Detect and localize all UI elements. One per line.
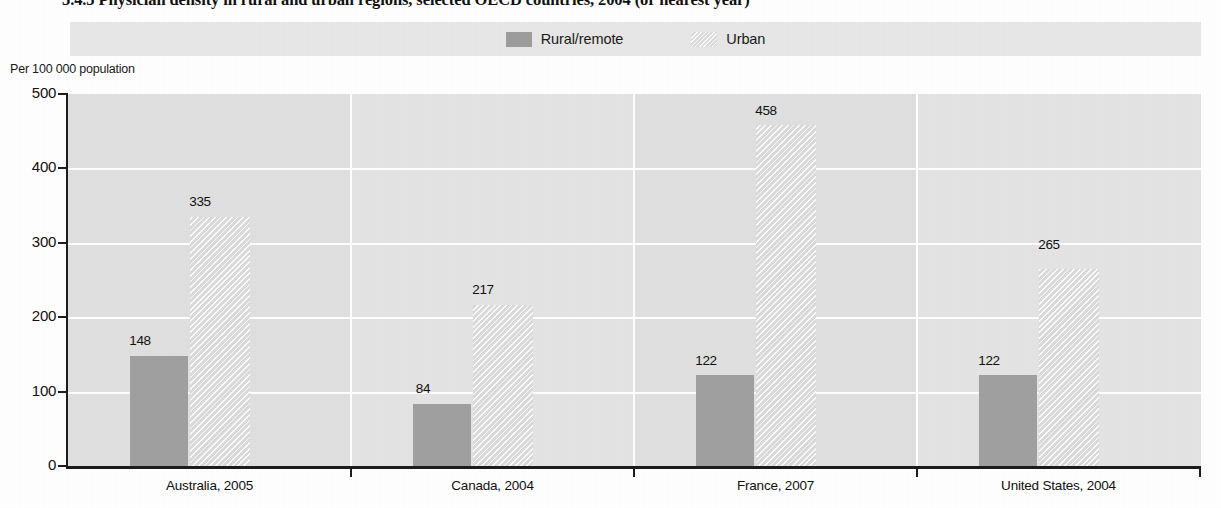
y-tick-500: [58, 93, 67, 95]
bar-rural-france: [696, 375, 754, 466]
group-separator: [916, 94, 918, 466]
x-axis-category-canada: Canada, 2004: [351, 478, 634, 493]
x-axis-category-australia: Australia, 2005: [68, 478, 351, 493]
x-axis-category-united-states: United States, 2004: [917, 478, 1200, 493]
legend-swatch-urban-icon: [691, 32, 717, 47]
group-separator: [350, 94, 352, 466]
bar-value-rural-canada: 84: [393, 381, 453, 396]
y-tick-200: [58, 316, 67, 318]
y-tick-100: [58, 391, 67, 393]
x-axis-category-france: France, 2007: [634, 478, 917, 493]
x-tick-separator: [350, 468, 352, 477]
bar-value-rural-united-states: 122: [959, 353, 1019, 368]
plot-area: [68, 94, 1201, 466]
page-title: 3.4.3 Physician density in rural and urb…: [62, 0, 1202, 12]
bar-rural-canada: [413, 404, 471, 467]
bar-urban-canada: [473, 305, 533, 466]
legend-label-rural: Rural/remote: [541, 31, 624, 47]
x-tick-separator: [1199, 468, 1201, 477]
group-separator: [633, 94, 635, 466]
chart-plot: 148 335 84 217 122 458 122 265 500 400 3…: [0, 80, 1221, 508]
legend-item-rural: Rural/remote: [506, 31, 624, 47]
y-axis-line: [66, 93, 68, 467]
y-tick-0: [58, 465, 67, 467]
y-axis-label-100: 100: [8, 382, 56, 399]
bar-value-rural-australia: 148: [110, 333, 170, 348]
y-axis-label-500: 500: [8, 84, 56, 101]
y-axis-label-300: 300: [8, 233, 56, 250]
y-tick-300: [58, 242, 67, 244]
legend-label-urban: Urban: [726, 31, 765, 47]
bar-value-urban-united-states: 265: [1019, 237, 1079, 252]
y-tick-400: [58, 167, 67, 169]
bar-value-urban-france: 458: [736, 103, 796, 118]
bar-value-urban-australia: 335: [170, 194, 230, 209]
y-axis-label-0: 0: [8, 456, 56, 473]
x-tick-separator: [916, 468, 918, 477]
bar-rural-australia: [130, 356, 188, 466]
legend-swatch-rural-icon: [506, 32, 532, 47]
y-axis-label-400: 400: [8, 158, 56, 175]
y-axis-label-200: 200: [8, 307, 56, 324]
bar-value-rural-france: 122: [676, 353, 736, 368]
chart-legend: Rural/remote Urban: [70, 22, 1201, 56]
x-tick-separator: [633, 468, 635, 477]
bar-urban-united-states: [1039, 269, 1099, 466]
bar-urban-australia: [190, 217, 250, 466]
bar-rural-united-states: [979, 375, 1037, 466]
legend-item-urban: Urban: [691, 31, 765, 47]
bar-value-urban-canada: 217: [453, 282, 513, 297]
y-axis-unit-label: Per 100 000 population: [10, 62, 135, 76]
bar-urban-france: [756, 125, 816, 466]
